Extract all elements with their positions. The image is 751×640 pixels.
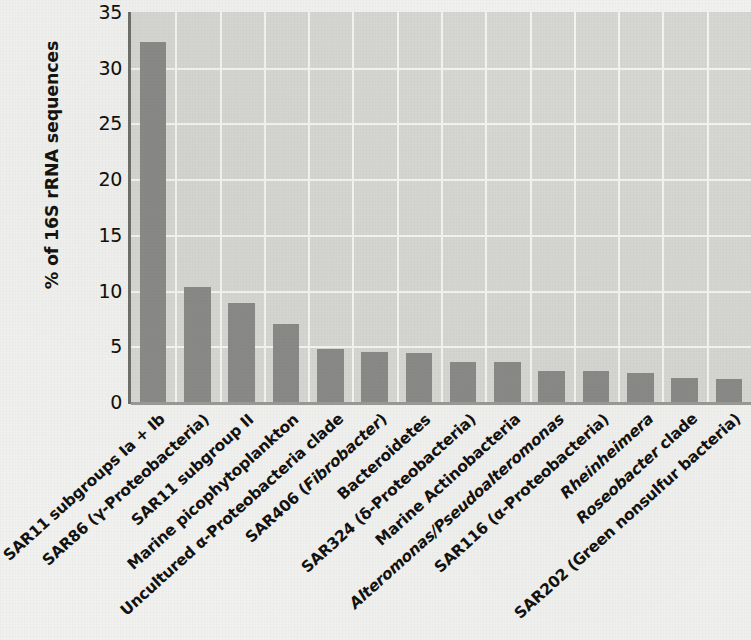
- bar-chart-figure: % of 16S rRNA sequences 05101520253035 S…: [0, 0, 751, 640]
- x-axis-tick-labels: SAR11 subgroups Ia + IbSAR86 (γ-Proteoba…: [0, 0, 751, 640]
